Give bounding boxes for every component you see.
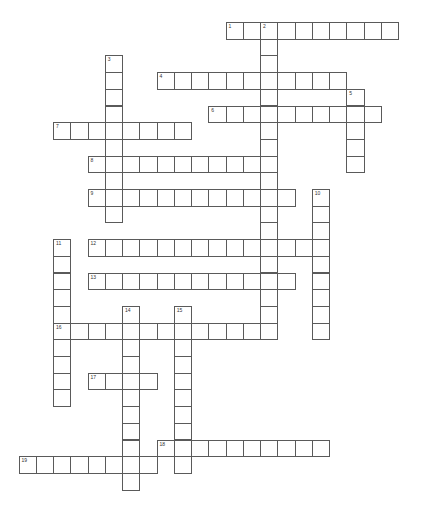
crossword-cell[interactable] [260, 122, 278, 140]
crossword-cell[interactable] [139, 373, 157, 391]
crossword-cell[interactable] [260, 440, 278, 458]
crossword-cell[interactable] [191, 440, 209, 458]
crossword-cell[interactable]: 2 [260, 22, 278, 40]
crossword-cell[interactable] [174, 356, 192, 374]
crossword-cell[interactable] [157, 189, 175, 207]
crossword-cell[interactable] [157, 156, 175, 174]
crossword-cell[interactable] [105, 139, 123, 157]
crossword-cell[interactable] [226, 72, 244, 90]
crossword-cell[interactable] [105, 456, 123, 474]
crossword-cell[interactable] [191, 323, 209, 341]
crossword-cell[interactable]: 19 [19, 456, 37, 474]
crossword-cell[interactable]: 7 [53, 122, 71, 140]
crossword-cell[interactable] [122, 356, 140, 374]
crossword-cell[interactable] [260, 289, 278, 307]
crossword-cell[interactable] [191, 273, 209, 291]
crossword-cell[interactable] [243, 72, 261, 90]
crossword-cell[interactable] [243, 189, 261, 207]
crossword-cell[interactable] [364, 22, 382, 40]
crossword-cell[interactable] [243, 273, 261, 291]
crossword-cell[interactable]: 17 [88, 373, 106, 391]
crossword-cell[interactable]: 13 [88, 273, 106, 291]
crossword-cell[interactable] [260, 323, 278, 341]
crossword-cell[interactable] [226, 323, 244, 341]
crossword-cell[interactable] [53, 256, 71, 274]
crossword-cell[interactable] [53, 306, 71, 324]
crossword-cell[interactable] [260, 139, 278, 157]
crossword-cell[interactable] [105, 239, 123, 257]
crossword-cell[interactable] [191, 156, 209, 174]
crossword-cell[interactable] [277, 440, 295, 458]
crossword-cell[interactable] [226, 273, 244, 291]
crossword-cell[interactable] [139, 239, 157, 257]
crossword-cell[interactable] [329, 72, 347, 90]
crossword-cell[interactable] [174, 440, 192, 458]
crossword-cell[interactable]: 6 [208, 106, 226, 124]
crossword-cell[interactable] [312, 222, 330, 240]
crossword-cell[interactable] [277, 22, 295, 40]
crossword-cell[interactable] [139, 156, 157, 174]
crossword-cell[interactable] [346, 106, 364, 124]
crossword-cell[interactable] [122, 273, 140, 291]
crossword-cell[interactable] [312, 239, 330, 257]
crossword-cell[interactable] [312, 206, 330, 224]
crossword-cell[interactable] [53, 356, 71, 374]
crossword-cell[interactable] [122, 323, 140, 341]
crossword-cell[interactable] [70, 456, 88, 474]
crossword-cell[interactable] [312, 72, 330, 90]
crossword-cell[interactable] [312, 106, 330, 124]
crossword-cell[interactable] [260, 39, 278, 57]
crossword-cell[interactable]: 9 [88, 189, 106, 207]
crossword-cell[interactable] [174, 456, 192, 474]
crossword-cell[interactable] [277, 189, 295, 207]
crossword-cell[interactable] [208, 239, 226, 257]
crossword-cell[interactable] [208, 72, 226, 90]
crossword-cell[interactable] [243, 106, 261, 124]
crossword-cell[interactable] [346, 122, 364, 140]
crossword-cell[interactable] [312, 289, 330, 307]
crossword-cell[interactable] [312, 440, 330, 458]
crossword-cell[interactable]: 12 [88, 239, 106, 257]
crossword-cell[interactable] [226, 156, 244, 174]
crossword-cell[interactable] [260, 273, 278, 291]
crossword-cell[interactable] [208, 189, 226, 207]
crossword-cell[interactable] [174, 189, 192, 207]
crossword-cell[interactable] [53, 389, 71, 407]
crossword-cell[interactable] [105, 106, 123, 124]
crossword-cell[interactable] [243, 22, 261, 40]
crossword-cell[interactable] [277, 239, 295, 257]
crossword-cell[interactable] [36, 456, 54, 474]
crossword-cell[interactable] [157, 273, 175, 291]
crossword-cell[interactable] [260, 206, 278, 224]
crossword-cell[interactable] [329, 106, 347, 124]
crossword-cell[interactable]: 18 [157, 440, 175, 458]
crossword-cell[interactable] [122, 423, 140, 441]
crossword-cell[interactable] [139, 323, 157, 341]
crossword-cell[interactable] [139, 273, 157, 291]
crossword-cell[interactable] [260, 106, 278, 124]
crossword-cell[interactable] [105, 72, 123, 90]
crossword-cell[interactable] [260, 222, 278, 240]
crossword-cell[interactable] [122, 122, 140, 140]
crossword-cell[interactable] [260, 89, 278, 107]
crossword-cell[interactable] [260, 156, 278, 174]
crossword-cell[interactable] [191, 189, 209, 207]
crossword-cell[interactable] [208, 323, 226, 341]
crossword-cell[interactable] [53, 273, 71, 291]
crossword-cell[interactable] [295, 440, 313, 458]
crossword-cell[interactable] [122, 189, 140, 207]
crossword-cell[interactable] [174, 72, 192, 90]
crossword-cell[interactable] [174, 273, 192, 291]
crossword-cell[interactable] [105, 156, 123, 174]
crossword-cell[interactable] [174, 156, 192, 174]
crossword-cell[interactable] [88, 323, 106, 341]
crossword-cell[interactable]: 8 [88, 156, 106, 174]
crossword-cell[interactable] [122, 339, 140, 357]
crossword-cell[interactable] [105, 323, 123, 341]
crossword-cell[interactable] [312, 22, 330, 40]
crossword-cell[interactable]: 4 [157, 72, 175, 90]
crossword-cell[interactable] [70, 122, 88, 140]
crossword-cell[interactable]: 11 [53, 239, 71, 257]
crossword-cell[interactable]: 16 [53, 323, 71, 341]
crossword-cell[interactable]: 3 [105, 55, 123, 73]
